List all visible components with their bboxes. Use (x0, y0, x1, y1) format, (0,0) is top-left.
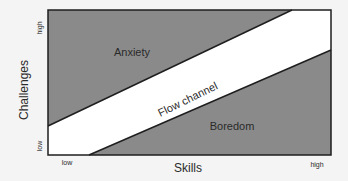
y-axis-low-label: low (36, 140, 43, 151)
y-axis-title: Challenges (17, 60, 31, 120)
x-axis-low-label: low (62, 159, 73, 166)
y-axis-high-label: high (36, 21, 44, 34)
x-axis-high-label: high (310, 161, 323, 169)
anxiety-label: Anxiety (114, 46, 151, 58)
boredom-label: Boredom (210, 120, 255, 132)
x-axis-title: Skills (174, 161, 202, 175)
flow-diagram: Anxiety Boredom Flow channel Challenges … (0, 0, 348, 181)
